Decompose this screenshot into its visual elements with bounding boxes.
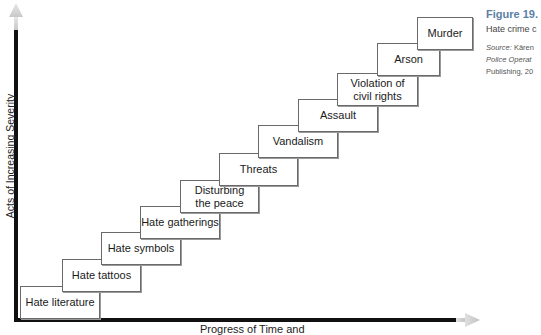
step-label: Disturbing the peace <box>195 184 245 210</box>
step-label: Arson <box>394 53 423 66</box>
source-label: Source: <box>486 43 512 52</box>
step-box: Murder <box>417 17 473 50</box>
source-author: Kären <box>512 43 534 52</box>
step-label: Hate tattoos <box>72 269 131 282</box>
up-arrow-icon <box>9 3 23 17</box>
step-label: Hate gatherings <box>141 216 219 229</box>
y-axis-label: Acts of Increasing Severity <box>4 91 16 221</box>
source-publisher: Publishing, 20 <box>486 66 534 78</box>
figure-caption: Hate crime c <box>486 24 537 34</box>
source-title: Police Operat <box>486 55 531 64</box>
step-label: Assault <box>320 109 356 122</box>
right-arrow-icon <box>465 313 480 327</box>
step-label: Hate literature <box>25 296 94 309</box>
figure-number: Figure 19. <box>486 8 538 20</box>
x-axis-label: Progress of Time and <box>200 323 305 335</box>
step-label: Hate symbols <box>108 242 175 255</box>
figure-source: Source: Kären Police Operat Publishing, … <box>486 42 534 78</box>
step-label: Threats <box>240 163 277 176</box>
step-label: Murder <box>428 27 463 40</box>
step-box: Violation of civil rights <box>337 73 418 106</box>
step-label: Vandalism <box>273 135 324 148</box>
step-label: Violation of civil rights <box>350 77 404 103</box>
